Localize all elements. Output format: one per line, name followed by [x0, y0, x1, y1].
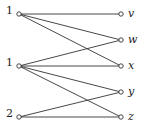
- right-node-label: v: [128, 7, 135, 20]
- left-node-label: 2: [6, 107, 13, 120]
- right-node-w: [119, 38, 123, 42]
- edge-L1-w: [19, 14, 121, 40]
- edge-L2-w: [19, 40, 121, 66]
- right-node-label: z: [127, 110, 134, 123]
- edges: [19, 14, 121, 117]
- right-node-x: [119, 64, 123, 68]
- edge-L2-z: [19, 66, 121, 117]
- labels: 112vwxyz: [6, 4, 138, 124]
- right-node-label: x: [128, 59, 135, 72]
- edge-L3-y: [19, 92, 121, 117]
- left-node-L1: [17, 12, 21, 16]
- edge-L1-x: [19, 14, 121, 66]
- left-node-L2: [17, 64, 21, 68]
- right-node-z: [119, 115, 123, 119]
- left-node-label: 1: [6, 56, 13, 69]
- right-node-y: [119, 90, 123, 94]
- left-node-L3: [17, 115, 21, 119]
- nodes: [17, 12, 123, 119]
- right-node-label: y: [127, 85, 135, 98]
- edge-L2-y: [19, 66, 121, 92]
- right-node-label: w: [128, 33, 138, 46]
- left-node-label: 1: [6, 4, 13, 17]
- bipartite-graph: 112vwxyz: [0, 0, 142, 128]
- right-node-v: [119, 12, 123, 16]
